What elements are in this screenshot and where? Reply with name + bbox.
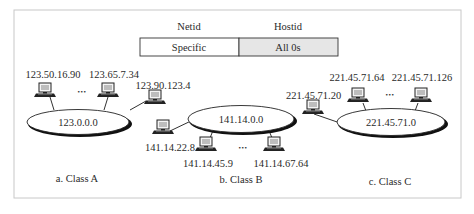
network-address: 123.0.0.0 xyxy=(58,117,97,128)
class-caption: c. Class C xyxy=(369,176,411,187)
host-address: 141.14.45.9 xyxy=(183,158,233,169)
netid-header: Netid xyxy=(177,21,201,32)
netid-value: Specific xyxy=(172,42,207,53)
host-address: 141.14.67.64 xyxy=(253,158,309,169)
class-caption: a. Class A xyxy=(56,173,99,184)
host-address: 221.45.71.126 xyxy=(392,72,452,83)
ellipsis: ••• xyxy=(78,88,87,96)
host-address: 221.45.71.64 xyxy=(329,72,385,83)
host-address: 221.45.71.20 xyxy=(286,90,341,101)
ellipsis: ••• xyxy=(239,144,248,152)
host-address: 123.65.7.34 xyxy=(89,69,140,80)
network-address: 221.45.71.0 xyxy=(366,117,416,128)
network-address-diagram: Netid Hostid Specific All 0s 123.0.0.0 1… xyxy=(0,0,474,214)
network-address: 141.14.0.0 xyxy=(219,114,264,125)
hostid-value: All 0s xyxy=(275,42,300,53)
ellipsis: ••• xyxy=(386,91,395,99)
hostid-header: Hostid xyxy=(274,21,303,32)
class-caption: b. Class B xyxy=(220,174,263,185)
host-address: 123.90.123.4 xyxy=(135,80,191,91)
host-address: 123.50.16.90 xyxy=(25,69,80,80)
host-address: 141.14.22.8 xyxy=(145,142,195,153)
